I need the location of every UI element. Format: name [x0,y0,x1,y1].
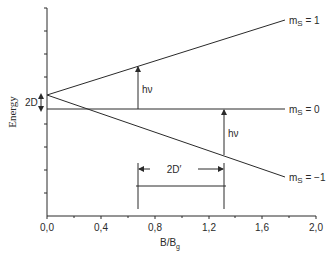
x-tick-label: 1,6 [255,222,269,233]
diagram-canvas: 0,0 0,4 0,8 1,2 1,6 2,0 B/Bg Energy mS =… [0,0,332,263]
y-axis [44,8,47,216]
label-ms-0: mS = 0 [289,104,320,117]
energy-level-diagram: 0,0 0,4 0,8 1,2 1,6 2,0 B/Bg Energy mS =… [0,0,332,263]
x-tick-label: 2,0 [309,222,323,233]
x-tick-label: 0,0 [40,222,54,233]
x-tick-labels: 0,0 0,4 0,8 1,2 1,6 2,0 [40,222,323,233]
label-ms-minus1: mS = −1 [289,172,326,185]
y-axis-label: Energy [6,96,18,128]
x-axis [47,216,316,219]
span-label: 2D′ [167,164,182,175]
hv-label-right: hν [228,128,239,139]
x-tick-label: 0,8 [148,222,162,233]
zero-field-arrow [38,93,44,112]
hv-label-left: hν [142,84,153,95]
zero-field-label: 2D [25,97,38,108]
x-axis-label: B/Bg [160,237,180,251]
line-ms-plus1 [47,20,285,95]
x-tick-label: 0,4 [94,222,108,233]
energy-lines [47,20,285,177]
x-tick-label: 1,2 [202,222,216,233]
label-ms-plus1: mS = 1 [289,15,320,28]
